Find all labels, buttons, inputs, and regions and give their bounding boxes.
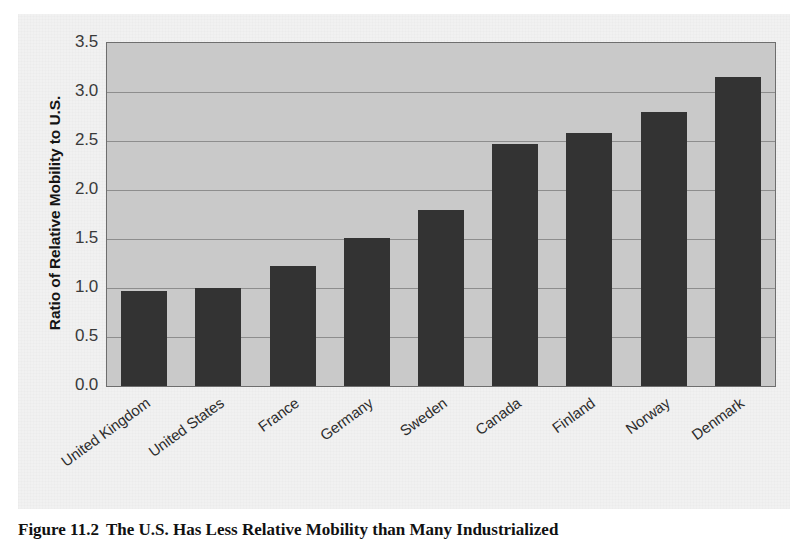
- bar-slot: [552, 43, 626, 386]
- bar-slot: [404, 43, 478, 386]
- x-axis-label-slot: Sweden: [403, 388, 477, 506]
- bar-slot: [255, 43, 329, 386]
- figure-caption-text: The U.S. Has Less Relative Mobility than…: [106, 520, 558, 539]
- x-axis-label-slot: France: [254, 388, 328, 506]
- figure-panel: Ratio of Relative Mobility to U.S. 3.53.…: [18, 14, 790, 509]
- x-axis-label-slot: Germany: [329, 388, 403, 506]
- bar-slot: [107, 43, 181, 386]
- x-axis-label-slot: Norway: [626, 388, 700, 506]
- y-axis-tick-label: 2.5: [48, 130, 98, 150]
- x-axis-label-slot: Denmark: [700, 388, 774, 506]
- bar: [195, 288, 241, 386]
- y-axis-tick-label: 1.0: [48, 277, 98, 297]
- bar-slot: [701, 43, 775, 386]
- y-axis-tick-label: 0.0: [48, 375, 98, 395]
- figure-caption: Figure 11.2The U.S. Has Less Relative Mo…: [18, 519, 790, 539]
- bar-slot: [330, 43, 404, 386]
- x-axis-tick-label: Finland: [549, 394, 598, 436]
- bar: [492, 144, 538, 386]
- x-axis-tick-label: Sweden: [397, 394, 450, 439]
- figure-page: Ratio of Relative Mobility to U.S. 3.53.…: [0, 0, 805, 539]
- bar: [121, 291, 167, 386]
- bar: [566, 133, 612, 386]
- x-axis-label-slot: Finland: [551, 388, 625, 506]
- x-axis-label-slot: United States: [180, 388, 254, 506]
- y-axis-tick-label: 1.5: [48, 228, 98, 248]
- bar: [344, 238, 390, 386]
- plot-area: [106, 42, 776, 387]
- y-axis-tick-label: 0.5: [48, 326, 98, 346]
- bar: [418, 210, 464, 386]
- x-axis-tick-label: France: [254, 394, 301, 435]
- bar-slot: [627, 43, 701, 386]
- x-axis-tick-labels: United KingdomUnited StatesFranceGermany…: [106, 388, 774, 506]
- bar-slot: [478, 43, 552, 386]
- y-axis-tick-label: 3.0: [48, 81, 98, 101]
- y-axis-tick-label: 2.0: [48, 179, 98, 199]
- bar: [270, 266, 316, 386]
- x-axis-tick-label: Canada: [472, 394, 524, 438]
- bar: [715, 77, 761, 386]
- bar: [641, 112, 687, 386]
- figure-number: Figure 11.2: [18, 520, 99, 539]
- bar-slot: [181, 43, 255, 386]
- bar-series: [107, 43, 775, 386]
- x-axis-tick-label: Norway: [622, 394, 673, 437]
- x-axis-label-slot: Canada: [477, 388, 551, 506]
- y-axis-tick-label: 3.5: [48, 32, 98, 52]
